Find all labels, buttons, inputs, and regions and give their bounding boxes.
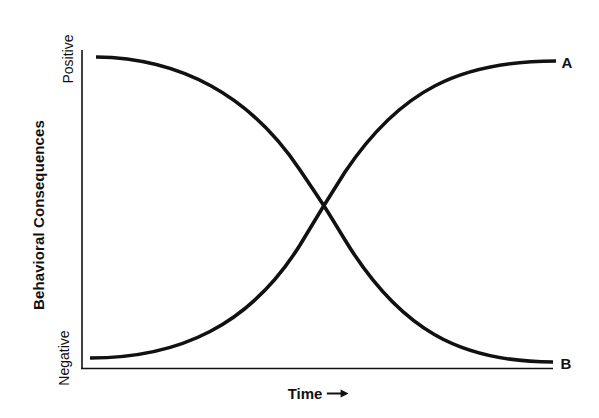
- sigmoid-crossing-diagram: Behavioral Consequences Positive Negativ…: [0, 0, 599, 418]
- curve-a: [90, 61, 556, 358]
- y-axis-positive-label: Positive: [60, 34, 76, 83]
- plot-area: [0, 0, 599, 418]
- x-axis-title-group: Time: [288, 385, 349, 402]
- y-axis-negative-label: Negative: [56, 330, 72, 385]
- curve-a-label: A: [562, 54, 573, 71]
- curve-b-label: B: [561, 355, 572, 372]
- curve-b: [96, 57, 553, 362]
- y-axis-title: Behavioral Consequences: [30, 120, 47, 310]
- x-axis-title: Time: [288, 385, 323, 402]
- right-arrow-icon: [326, 388, 348, 398]
